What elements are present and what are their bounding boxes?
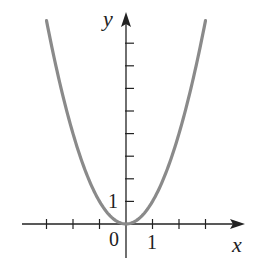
parabola-chart: y x 0 1 1 [0,0,263,278]
y-axis-label: y [101,6,113,31]
origin-label: 0 [109,228,119,250]
x-axis-label: x [231,232,242,257]
x-tick-label-1: 1 [147,231,157,253]
y-tick-label-1: 1 [108,190,118,212]
